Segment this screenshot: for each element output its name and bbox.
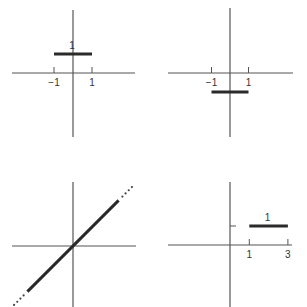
- segment-value-label: 1: [265, 212, 271, 223]
- x-tick-label: 1: [89, 77, 95, 88]
- x-tick-label: 1: [246, 77, 252, 88]
- panel-top-right: −11: [168, 8, 293, 137]
- panel-bottom-left: [12, 182, 136, 307]
- panel-top-left: −111: [12, 10, 135, 137]
- dotted-continuation-dot: [16, 301, 18, 303]
- dotted-continuation-dot: [19, 297, 21, 299]
- dotted-continuation-dot: [13, 304, 15, 306]
- dotted-continuation-dot: [121, 196, 123, 198]
- x-tick-label: 3: [285, 249, 291, 260]
- x-tick-label: −1: [48, 77, 60, 88]
- segment-value-label: 1: [69, 40, 75, 51]
- x-tick-label: 1: [247, 249, 253, 260]
- dotted-continuation-dot: [131, 186, 133, 188]
- function-graphs-figure: −111−11131: [0, 0, 307, 307]
- dotted-continuation-dot: [23, 294, 25, 296]
- x-tick-label: −1: [206, 77, 218, 88]
- dotted-continuation-dot: [124, 192, 126, 194]
- panel-bottom-right: 131: [168, 182, 292, 307]
- dotted-continuation-dot: [128, 189, 130, 191]
